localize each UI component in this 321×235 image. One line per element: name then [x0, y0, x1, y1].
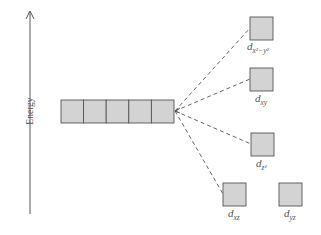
label-sub: xz	[234, 213, 240, 222]
label-dz2: dz²	[256, 157, 267, 172]
orbital-box-dxz	[223, 183, 246, 206]
diagram-canvas	[0, 0, 321, 235]
degenerate-d-orbitals	[61, 100, 174, 123]
energy-axis-label: Energy	[25, 87, 35, 135]
label-dx2y2: dx²−y²	[247, 40, 269, 55]
label-sub: xy	[261, 98, 268, 107]
label-sub: yz	[290, 213, 296, 222]
label-sub: z²	[262, 163, 267, 172]
orbital-box-dyz	[279, 183, 302, 206]
orbital-box-dxy	[250, 68, 273, 91]
label-sub: x²−y²	[253, 46, 269, 55]
orbital-box-dz2	[251, 133, 274, 156]
label-dyz: dyz	[284, 207, 296, 222]
dashed-connectors	[175, 28, 251, 194]
label-dxy: dxy	[255, 92, 267, 107]
label-dxz: dxz	[228, 207, 240, 222]
orbital-splitting-diagram: Energy dx²−y² dxy dz² dxz dyz	[0, 0, 321, 235]
orbital-box-dx2y2	[250, 17, 273, 40]
